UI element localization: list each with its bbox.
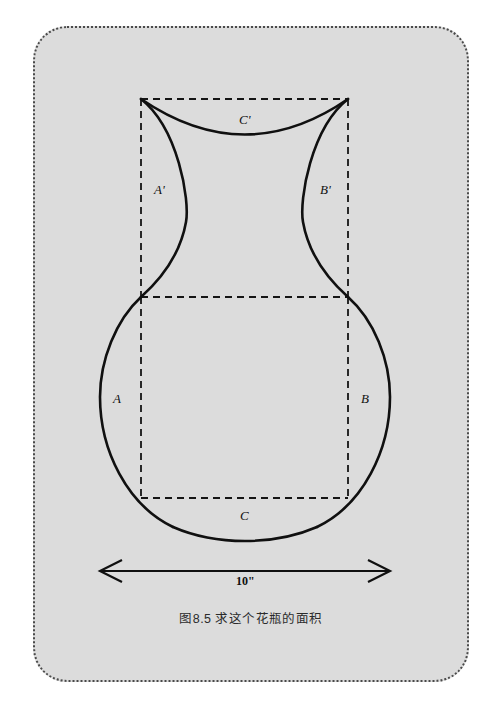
figure-caption: 图8.5 求这个花瓶的面积 <box>0 608 502 627</box>
label-a: A <box>113 392 121 405</box>
label-b: B <box>361 392 369 405</box>
label-b-prime: B' <box>320 183 331 196</box>
label-c: C <box>240 509 249 522</box>
label-a-prime: A' <box>154 183 165 196</box>
dimension-label: 10" <box>236 575 255 587</box>
figure-page: A' B' C' A B C 10" 图8.5 求这个花瓶的面积 <box>0 0 502 711</box>
label-c-prime: C' <box>239 113 250 126</box>
